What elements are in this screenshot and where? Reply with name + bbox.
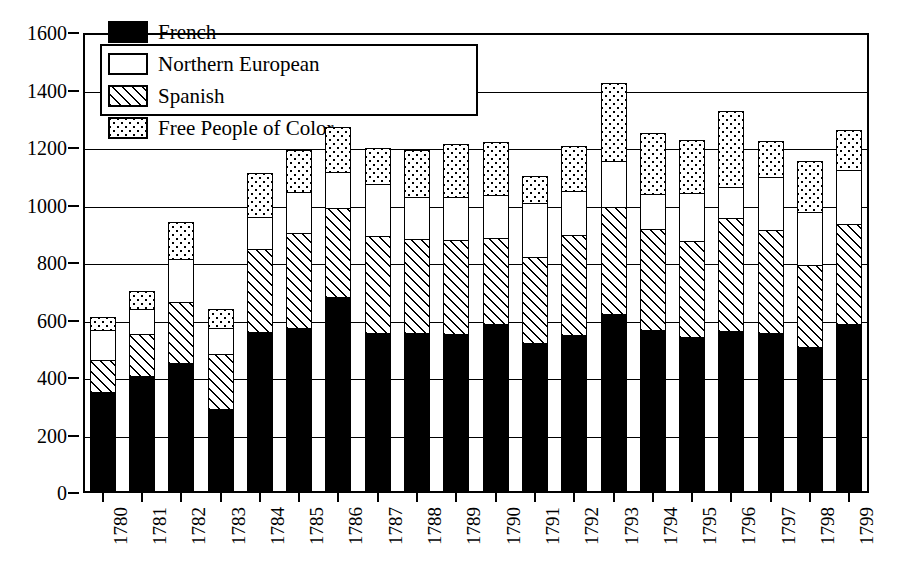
bar-segment [208, 328, 234, 355]
legend-item: Free People of Color [108, 112, 314, 144]
bar-segment [325, 172, 351, 209]
bar-segment [797, 212, 823, 266]
bar-segment [561, 335, 587, 493]
bar-segment [797, 161, 823, 212]
x-axis-tick-label: 1791 [543, 507, 562, 545]
x-axis-tickmark [613, 493, 615, 502]
bar-segment [483, 195, 509, 239]
bar-segment [286, 192, 312, 234]
bar-segment [168, 222, 194, 260]
x-axis-tickmark [102, 493, 104, 502]
legend-swatch-icon [108, 85, 148, 107]
x-axis-tick-label: 1780 [111, 507, 130, 545]
x-axis-tick-label: 1785 [307, 507, 326, 545]
y-axis-tickmark [68, 90, 79, 92]
bar-segment [325, 297, 351, 493]
bar-segment [90, 392, 116, 493]
chart-legend: FrenchNorthern EuropeanSpanishFree Peopl… [100, 44, 478, 116]
x-axis-tickmark [416, 493, 418, 502]
bar-segment [601, 83, 627, 162]
bar-segment [522, 343, 548, 493]
x-axis-tickmark [259, 493, 261, 502]
y-axis-tickmark [68, 262, 79, 264]
bar-segment [208, 309, 234, 329]
y-axis-tick-label: 1200 [27, 138, 67, 158]
bar-segment [443, 197, 469, 241]
y-axis-tick-label: 1400 [27, 81, 67, 101]
bar-segment [286, 150, 312, 193]
bar-group [836, 33, 862, 493]
bar-segment [758, 177, 784, 231]
x-axis-tickmark [220, 493, 222, 502]
x-axis-tick-label: 1797 [779, 507, 798, 545]
x-axis-tickmark [730, 493, 732, 502]
x-axis-tick-label: 1781 [150, 507, 169, 545]
bar-segment [404, 333, 430, 493]
x-axis-tickmark [298, 493, 300, 502]
bar-segment [247, 217, 273, 250]
bar-segment [443, 144, 469, 198]
bar-segment [836, 324, 862, 493]
bar-segment [129, 334, 155, 378]
bar-group [758, 33, 784, 493]
bar-group [561, 33, 587, 493]
x-axis-tickmark [848, 493, 850, 502]
bar-segment [640, 133, 666, 196]
x-axis-tickmark [691, 493, 693, 502]
y-axis-tickmark [68, 320, 79, 322]
bar-segment [286, 233, 312, 329]
x-axis-tickmark [377, 493, 379, 502]
legend-label: French [158, 22, 216, 43]
bar-group [679, 33, 705, 493]
legend-swatch-icon [108, 117, 148, 139]
y-axis-tick-label: 800 [37, 253, 67, 273]
x-axis-tick-label: 1798 [818, 507, 837, 545]
bar-segment [640, 330, 666, 493]
x-axis-tick-label: 1799 [857, 507, 876, 545]
bar-group [640, 33, 666, 493]
bar-segment [640, 229, 666, 331]
bar-segment [325, 127, 351, 173]
bar-group [483, 33, 509, 493]
y-axis-tickmark [68, 147, 79, 149]
bar-group [522, 33, 548, 493]
legend-swatch-icon [108, 21, 148, 43]
legend-label: Spanish [158, 86, 225, 107]
bar-segment [679, 140, 705, 194]
y-axis: 02004006008001000120014001600 [0, 0, 83, 575]
bar-segment [129, 291, 155, 310]
x-axis-tickmark [455, 493, 457, 502]
bar-segment [561, 146, 587, 192]
bar-segment [365, 148, 391, 184]
bar-segment [522, 203, 548, 259]
legend-item: Spanish [108, 80, 266, 112]
y-axis-tickmark [68, 435, 79, 437]
bar-segment [836, 224, 862, 325]
bar-segment [168, 363, 194, 493]
bar-segment [522, 176, 548, 203]
bar-segment [797, 265, 823, 348]
bar-segment [483, 324, 509, 493]
bar-segment [247, 332, 273, 493]
x-axis-tick-label: 1796 [739, 507, 758, 545]
bar-segment [601, 314, 627, 493]
bar-segment [718, 187, 744, 219]
y-axis-tickmark [68, 32, 79, 34]
bar-segment [718, 111, 744, 188]
x-axis-tick-label: 1795 [700, 507, 719, 545]
bar-segment [601, 207, 627, 314]
x-axis-tickmark [337, 493, 339, 502]
bar-segment [797, 347, 823, 493]
bar-segment [90, 360, 116, 393]
legend-swatch-icon [108, 53, 148, 75]
bar-segment [758, 230, 784, 334]
bar-segment [404, 197, 430, 240]
bar-segment [90, 330, 116, 361]
stacked-bar-chart: 02004006008001000120014001600 1780178117… [0, 0, 900, 575]
x-axis-tickmark [809, 493, 811, 502]
x-axis-tick-label: 1793 [622, 507, 641, 545]
bar-segment [247, 249, 273, 333]
bar-segment [718, 218, 744, 332]
bar-segment [168, 302, 194, 363]
x-axis-tick-label: 1790 [504, 507, 523, 545]
